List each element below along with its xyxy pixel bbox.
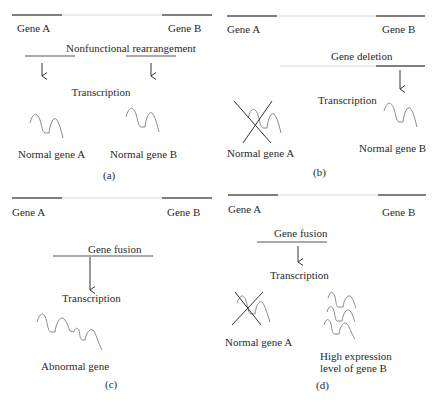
- transcription-label: Transcription: [270, 269, 329, 281]
- gene-b-label: Gene B: [382, 23, 415, 35]
- panel-b-graphics: [227, 16, 425, 143]
- mrna-wave-icon: [237, 296, 270, 322]
- transcription-label: Transcription: [62, 292, 121, 304]
- product-b-label-line2: level of gene B: [320, 362, 387, 374]
- product-b-label: Normal gene B: [110, 148, 177, 160]
- gene-a-label: Gene A: [228, 203, 261, 215]
- abnormal-mrna-wave-icon: [37, 314, 102, 350]
- event-label: Nonfunctional rearrangement: [66, 42, 196, 54]
- panel-label: (a): [103, 169, 115, 181]
- product-label: Abnormal gene: [41, 360, 109, 372]
- event-label: Gene deletion: [331, 50, 392, 62]
- product-b-label: Normal gene B: [359, 142, 426, 154]
- gene-b-label: Gene B: [168, 22, 201, 34]
- gene-b-label: Gene B: [382, 206, 415, 218]
- panel-label: (b): [313, 166, 326, 178]
- product-a-label: Normal gene A: [18, 148, 85, 160]
- event-label: Gene fusion: [274, 227, 327, 239]
- product-a-label: Normal gene A: [225, 336, 292, 348]
- cross-out-icon: [234, 101, 272, 143]
- mrna-wave-icon: [384, 103, 417, 127]
- multiple-mrna-waves-icon: [324, 293, 356, 339]
- panel-label: (d): [316, 379, 329, 391]
- product-b-label-line1: High expression: [320, 350, 392, 362]
- product-a-label: Normal gene A: [227, 147, 294, 159]
- gene-b-label: Gene B: [167, 206, 200, 218]
- transcription-label: Transcription: [318, 94, 377, 106]
- gene-a-label: Gene A: [227, 23, 260, 35]
- mrna-wave-icon: [30, 114, 63, 138]
- gene-a-label: Gene A: [17, 22, 50, 34]
- event-label: Gene fusion: [88, 243, 141, 255]
- cross-out-icon: [232, 292, 263, 325]
- transcription-label: Transcription: [72, 86, 131, 98]
- mrna-wave-icon: [126, 108, 159, 132]
- gene-a-label: Gene A: [12, 206, 45, 218]
- panel-label: (c): [105, 378, 117, 390]
- panel-c-graphics: [12, 198, 212, 350]
